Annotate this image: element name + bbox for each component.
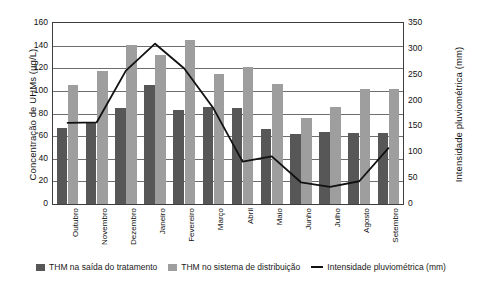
y-tick-left: 40 [8,153,48,163]
legend-item-thm-distribuicao: THM no sistema de distribuição [168,262,300,272]
y-tick-left: 100 [8,85,48,95]
x-axis-label: Dezembro [129,208,138,245]
legend-label: Intensidade pluviométrica (mm) [327,262,446,272]
y-tick-left: 20 [8,175,48,185]
line-series-layer [53,23,403,204]
intensidade-pluviometrica-line [68,44,389,187]
y-tick-right: 50 [408,172,448,182]
x-axis-label: Setembro [391,208,400,243]
y-tick-left: 120 [8,62,48,72]
y-tick-right: 350 [408,17,448,27]
light-square-swatch-icon [168,264,177,271]
legend-label: THM na saída do tratamento [49,262,157,272]
y-tick-right: 300 [408,43,448,53]
y-tick-left: 60 [8,130,48,140]
x-axis-label: Agosto [362,208,371,233]
y-tick-left: 160 [8,17,48,27]
x-axis-label: Março [216,208,225,230]
dark-square-swatch-icon [36,264,45,271]
x-axis-label: Outubro [71,208,80,237]
y-tick-left: 140 [8,40,48,50]
x-axis-label: Julho [333,208,342,227]
chart-legend: THM na saída do tratamento THM no sistem… [0,262,482,272]
y-tick-right: 0 [408,198,448,208]
y-tick-left: 80 [8,108,48,118]
y-tick-right: 100 [408,146,448,156]
x-axis-label: Novembro [100,208,109,245]
y-tick-left: 0 [8,198,48,208]
x-axis-category-labels: OutubroNovembroDezembroJaneiroFevereiroM… [53,208,403,256]
y-tick-right: 150 [408,120,448,130]
x-axis-label: Maio [275,208,284,225]
y-axis-right-ticks: 350300250200150100500 [408,22,452,205]
y-tick-right: 250 [408,69,448,79]
x-axis-label: Junho [304,208,313,230]
line-swatch-icon [311,266,323,268]
chart-container: Concentração de UHMs (µg/L) Intensidade … [0,0,482,284]
legend-item-intensidade: Intensidade pluviométrica (mm) [311,262,446,272]
legend-item-thm-saida: THM na saída do tratamento [36,262,157,272]
x-axis-label: Abril [246,208,255,224]
x-axis-label: Janeiro [158,208,167,234]
x-axis-label: Fevereiro [187,208,196,242]
legend-label: THM no sistema de distribuição [181,262,300,272]
y-axis-left-ticks: 160140120100806040200 [4,22,48,205]
y-tick-right: 200 [408,95,448,105]
y-axis-right-title: Intensidade pluviométrica (mm) [453,29,464,201]
